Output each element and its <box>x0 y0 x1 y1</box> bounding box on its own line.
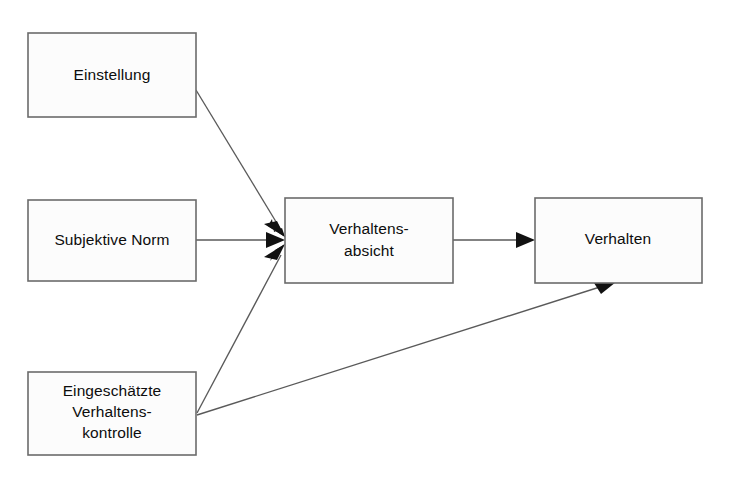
diagram-canvas: Einstellung Subjektive Norm Eingeschätzt… <box>0 0 735 479</box>
edge-subjektive-norm-to-verhaltensabsicht[interactable] <box>196 232 285 248</box>
edge-verhaltensabsicht-to-verhalten[interactable] <box>453 232 535 248</box>
node-label-einstellung: Einstellung <box>74 66 151 83</box>
node-subjektive-norm[interactable]: Subjektive Norm <box>28 200 196 281</box>
arrowhead-icon <box>516 232 535 248</box>
node-box <box>285 198 453 283</box>
node-einstellung[interactable]: Einstellung <box>28 33 196 117</box>
node-label-kontrolle-line2: Verhaltens- <box>72 403 152 420</box>
node-label-verhaltensabsicht-line2: absicht <box>344 242 394 259</box>
edge-line <box>196 90 281 230</box>
node-verhaltensabsicht[interactable]: Verhaltens- absicht <box>285 198 453 283</box>
edge-kontrolle-to-verhaltensabsicht[interactable] <box>197 244 285 413</box>
edge-kontrolle-to-verhalten[interactable] <box>197 282 616 415</box>
node-eingeschaetzte-verhaltenskontrolle[interactable]: Eingeschätzte Verhaltens- kontrolle <box>28 372 196 455</box>
nodes-layer: Einstellung Subjektive Norm Eingeschätzt… <box>28 33 702 455</box>
node-label-kontrolle-line3: kontrolle <box>82 424 142 441</box>
node-verhalten[interactable]: Verhalten <box>535 198 702 283</box>
node-label-verhalten: Verhalten <box>585 230 651 247</box>
node-label-verhaltensabsicht-line1: Verhaltens- <box>329 220 409 237</box>
edge-line <box>197 255 281 413</box>
theory-of-planned-behavior-diagram: Einstellung Subjektive Norm Eingeschätzt… <box>0 0 735 479</box>
edge-line <box>197 286 603 415</box>
node-label-kontrolle-line1: Eingeschätzte <box>63 382 162 399</box>
node-label-subjektive-norm: Subjektive Norm <box>54 231 169 248</box>
edge-einstellung-to-verhaltensabsicht[interactable] <box>196 90 285 237</box>
